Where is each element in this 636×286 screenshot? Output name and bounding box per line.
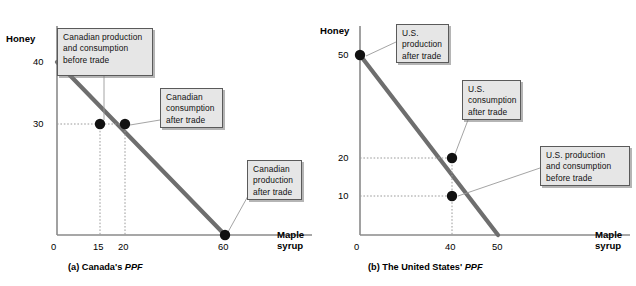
- canada-point-consumption-after-trade: [120, 119, 130, 129]
- canada-caption-prefix: (a) Canada's: [68, 262, 125, 272]
- us-xtick-50: 50: [492, 241, 502, 252]
- canada-origin-label: 0: [51, 241, 56, 252]
- canada-point-before-trade: [95, 119, 105, 129]
- us-leader-consumption-after-trade: [455, 120, 468, 154]
- us-point-production-after-trade: [355, 50, 365, 60]
- panel-united-states: Honey Maple syrup 50 20 10 0 40 50 U.S. …: [318, 0, 636, 286]
- canada-xtick-20: 20: [118, 241, 128, 252]
- us-origin-label: 0: [354, 241, 359, 252]
- us-point-before-trade: [447, 191, 457, 201]
- us-ytick-50: 50: [338, 49, 348, 60]
- us-leader-production-after-trade: [366, 42, 396, 56]
- canada-point-production-after-trade: [220, 230, 230, 240]
- canada-leader-consumption-after-trade: [130, 120, 160, 125]
- canada-leader-production-after-trade: [228, 196, 248, 232]
- us-caption: (b) The United States' PPF: [368, 262, 483, 272]
- us-ytick-10: 10: [338, 190, 348, 201]
- canada-y-axis-label: Honey: [6, 33, 35, 44]
- canada-caption: (a) Canada's PPF: [68, 262, 143, 272]
- callout-canada-production-after-trade: Canadian production after trade: [247, 160, 302, 200]
- canada-xtick-60: 60: [218, 241, 228, 252]
- us-caption-italic: PPF: [465, 262, 483, 272]
- callout-us-production-after-trade: U.S. production after trade: [396, 24, 449, 63]
- canada-xtick-15: 15: [93, 241, 103, 252]
- callout-us-consumption-after-trade: U.S. consumption after trade: [462, 80, 521, 120]
- callout-us-production-consumption-before-trade: U.S. production and consumption before t…: [540, 146, 630, 186]
- canada-plot-area: [0, 0, 318, 286]
- us-point-consumption-after-trade: [447, 153, 457, 163]
- us-y-axis-label: Honey: [320, 25, 349, 36]
- us-x-axis-label: Maple syrup: [595, 229, 622, 251]
- us-plot-area: [318, 0, 636, 286]
- us-xtick-40: 40: [445, 241, 455, 252]
- canada-ytick-40: 40: [33, 56, 43, 67]
- canada-caption-italic: PPF: [125, 262, 143, 272]
- us-ytick-20: 20: [338, 152, 348, 163]
- panel-canada: Honey Maple syrup 40 30 0 15 20 60 Canad…: [0, 0, 318, 286]
- canada-x-axis-label: Maple syrup: [277, 229, 304, 251]
- ppf-comparison-figure: Honey Maple syrup 40 30 0 15 20 60 Canad…: [0, 0, 636, 286]
- us-leader-before-trade: [458, 168, 540, 196]
- canada-ytick-30: 30: [33, 118, 43, 129]
- us-caption-prefix: (b) The United States': [368, 262, 465, 272]
- callout-canada-production-consumption-before-trade: Canadian production and consumption befo…: [57, 28, 153, 76]
- callout-canada-consumption-after-trade: Canadian consumption after trade: [160, 88, 223, 128]
